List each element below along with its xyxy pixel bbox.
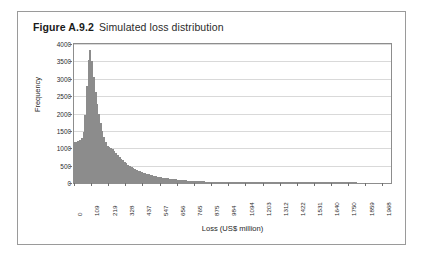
x-axis-tick-mark	[177, 183, 178, 186]
x-axis-tick-mark	[365, 183, 366, 186]
y-axis-tick-marks	[18, 43, 78, 184]
x-axis-tick-label: 547	[162, 206, 169, 216]
x-axis-tick-mark	[297, 183, 298, 186]
histogram-chart: Frequency 050010001500200025003000350040…	[18, 12, 407, 246]
x-axis-tick-mark	[331, 183, 332, 186]
x-axis-tick-label: 1531	[316, 202, 323, 216]
x-axis-tick-label: 765	[196, 206, 203, 216]
x-axis-tick-mark	[263, 183, 264, 186]
x-axis-tick-mark	[382, 183, 383, 186]
x-axis-tick-label: 1422	[299, 202, 306, 216]
x-axis-tick-label: 1968	[385, 202, 392, 216]
x-axis-tick-label: 875	[213, 206, 220, 216]
x-axis-tick-label: 219	[111, 206, 118, 216]
x-axis-tick-label: 0	[76, 213, 83, 216]
x-axis-tick-mark	[228, 183, 229, 186]
x-axis-tick-mark	[211, 183, 212, 186]
x-axis-tick-label: 1640	[333, 202, 340, 216]
y-axis-tick-mark	[69, 166, 72, 167]
histogram-bars	[74, 44, 391, 183]
x-axis-tick-mark	[108, 183, 109, 186]
x-axis-tick-mark	[194, 183, 195, 186]
y-axis-tick-mark	[69, 148, 72, 149]
x-axis-tick-mark	[74, 183, 75, 186]
x-axis-tick-mark	[91, 183, 92, 186]
x-axis-title: Loss (US$ million)	[73, 224, 392, 233]
x-axis-tick-mark	[245, 183, 246, 186]
x-axis-tick-mark	[125, 183, 126, 186]
y-axis-tick-mark	[69, 79, 72, 80]
x-axis-tick-label: 1094	[248, 202, 255, 216]
y-axis-tick-mark	[69, 183, 72, 184]
y-axis-tick-mark	[69, 61, 72, 62]
x-axis-tick-mark	[348, 183, 349, 186]
x-axis-tick-mark	[280, 183, 281, 186]
x-axis-tick-label: 437	[145, 206, 152, 216]
x-axis-tick-mark	[314, 183, 315, 186]
x-axis-tick-label: 656	[179, 206, 186, 216]
y-axis-tick-mark	[69, 114, 72, 115]
plot-area	[73, 43, 392, 184]
y-axis-tick-mark	[69, 131, 72, 132]
histogram-bar	[355, 182, 357, 183]
x-axis-tick-label: 1750	[350, 202, 357, 216]
x-axis-tick-label: 1203	[265, 202, 272, 216]
x-axis-tick-label: 1312	[282, 202, 289, 216]
x-axis-tick-labels: 0109219328437547656765875984109412031312…	[73, 186, 392, 220]
figure-frame: Figure A.9.2Simulated loss distribution …	[17, 11, 406, 245]
x-axis-tick-mark	[142, 183, 143, 186]
x-axis-tick-label: 109	[93, 206, 100, 216]
y-axis-tick-mark	[69, 96, 72, 97]
x-axis-tick-label: 1859	[368, 202, 375, 216]
x-axis-tick-label: 328	[128, 206, 135, 216]
y-axis-tick-mark	[69, 44, 72, 45]
x-axis-tick-mark	[160, 183, 161, 186]
x-axis-tick-label: 984	[230, 206, 237, 216]
